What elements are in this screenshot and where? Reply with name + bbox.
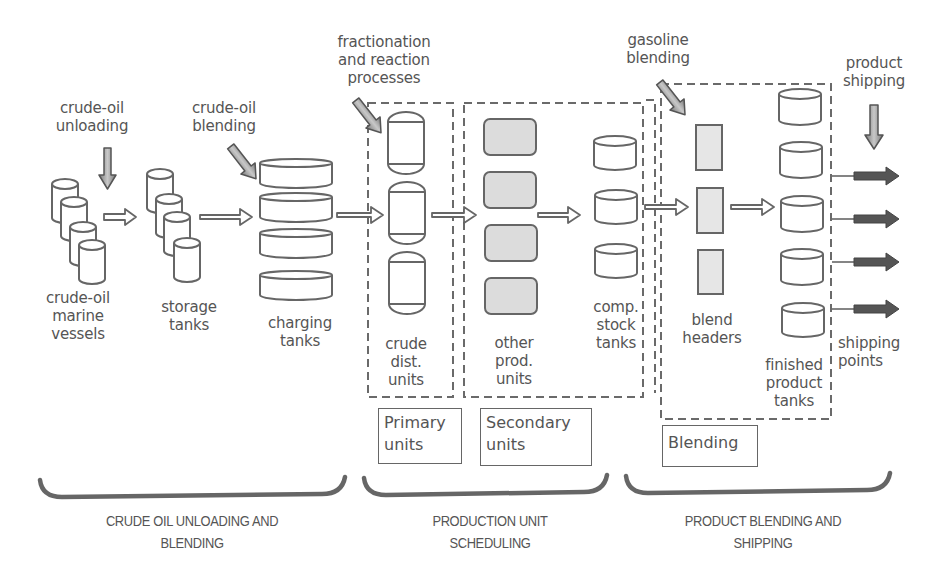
unloading-pointer-arrow (99, 148, 116, 189)
bracket-production-stage (364, 475, 607, 495)
label-crude-oil-blending: crude-oil blending (178, 99, 270, 135)
secondary-units-box: Secondary units (480, 408, 592, 466)
finished-product-tanks-icon (779, 89, 824, 337)
blending-pointer-arrow (224, 141, 263, 184)
shipping-pointer-arrow (865, 105, 883, 149)
stage-caption-blending: PRODUCT BLENDING AND SHIPPING (638, 510, 887, 554)
label-crude-dist-units: crude dist. units (370, 335, 442, 389)
flow-arrows (104, 199, 774, 225)
stage-brackets (40, 473, 890, 497)
label-finished-product-tanks: finished product tanks (758, 356, 830, 410)
label-charging-tanks: charging tanks (256, 314, 344, 350)
arrow-comp-to-blend (645, 199, 688, 215)
arrow-blend-to-finished (731, 199, 774, 215)
label-product-shipping: product shipping (834, 54, 914, 90)
other-prod-units-icon (484, 119, 537, 314)
stage-caption-production: PRODUCTION UNIT SCHEDULING (391, 510, 589, 554)
label-marine-vessels: crude-oil marine vessels (30, 289, 126, 343)
label-crude-oil-unloading: crude-oil unloading (44, 99, 140, 135)
blend-headers-icon (696, 125, 723, 294)
label-other-prod-units: other prod. units (478, 334, 550, 388)
label-comp-stock-tanks: comp. stock tanks (586, 298, 646, 352)
comp-tanks-right-dashed-edge (646, 100, 655, 393)
charging-tanks-icon (260, 159, 332, 300)
label-fractionation: fractionation and reaction processes (329, 33, 439, 87)
marine-vessels-icon (52, 179, 105, 284)
arrow-charging-to-crude (337, 207, 383, 223)
bracket-blending-stage (626, 473, 890, 493)
arrow-vessels-to-storage (104, 209, 136, 225)
gasoline-pointer-arrow (653, 77, 692, 120)
label-storage-tanks: storage tanks (145, 298, 233, 334)
comp-stock-tanks-icon (594, 136, 637, 278)
crude-dist-units-icon (388, 112, 425, 314)
bracket-crude-oil-stage (40, 477, 345, 497)
label-gasoline-blending: gasoline blending (620, 31, 696, 67)
storage-tanks-icon (147, 169, 200, 282)
arrow-other-to-comp (538, 207, 580, 223)
stage-caption-crude-oil: CRUDE OIL UNLOADING AND BLENDING (57, 510, 327, 554)
refinery-scheduling-diagram (0, 0, 939, 586)
primary-units-box: Primary units (378, 408, 462, 464)
arrow-storage-to-charging (200, 209, 252, 225)
label-blend-headers: blend headers (676, 311, 748, 347)
shipping-arrows (832, 167, 899, 318)
label-shipping-points: shipping points (838, 334, 918, 370)
blending-box: Blending (662, 425, 758, 467)
